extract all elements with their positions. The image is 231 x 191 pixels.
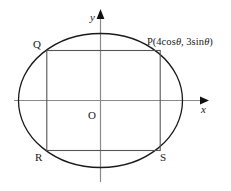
vertex-label-q: Q	[33, 39, 41, 50]
y-axis-arrowhead	[97, 9, 105, 19]
point-p-y-function: sin	[192, 36, 205, 47]
origin-label: O	[88, 110, 96, 121]
point-p-close-paren: )	[209, 36, 213, 47]
x-axis-label: x	[201, 104, 206, 115]
geometry-figure: y x O Q R S P(4cosθ, 3sinθ)	[0, 0, 231, 191]
vertex-label-r: R	[35, 152, 43, 163]
point-p-annotation: P(4cosθ, 3sinθ)	[147, 37, 213, 48]
vertex-label-s: S	[160, 152, 166, 163]
point-p-x-function: cos	[162, 36, 176, 47]
y-axis-label: y	[90, 12, 95, 23]
